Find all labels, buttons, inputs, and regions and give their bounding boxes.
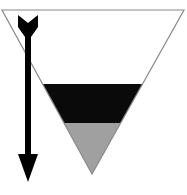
black-band xyxy=(43,84,143,123)
arrow-shaft xyxy=(25,33,31,154)
arrow-head xyxy=(18,154,38,182)
triangle-diagram xyxy=(0,0,187,195)
gray-bottom xyxy=(64,123,121,174)
diagram-canvas xyxy=(0,0,187,195)
